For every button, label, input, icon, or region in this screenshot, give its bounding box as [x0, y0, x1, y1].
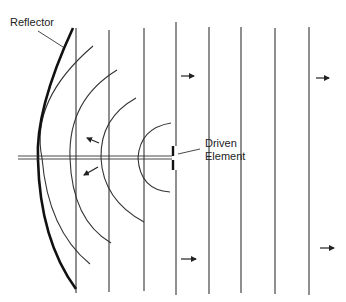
arrow-icon — [84, 167, 98, 175]
reflector-leader — [38, 31, 63, 47]
driven-element-leader — [178, 149, 200, 154]
plane-wavefronts — [76, 22, 309, 295]
curved-wavefronts — [40, 46, 171, 264]
arrow-icon — [87, 138, 99, 143]
antenna-wave-diagram — [0, 0, 346, 302]
boom — [18, 156, 172, 159]
driven-element-label-line1: Driven — [205, 137, 237, 149]
driven-element-label-line2: Element — [205, 150, 245, 162]
reflector-label: Reflector — [10, 16, 54, 28]
